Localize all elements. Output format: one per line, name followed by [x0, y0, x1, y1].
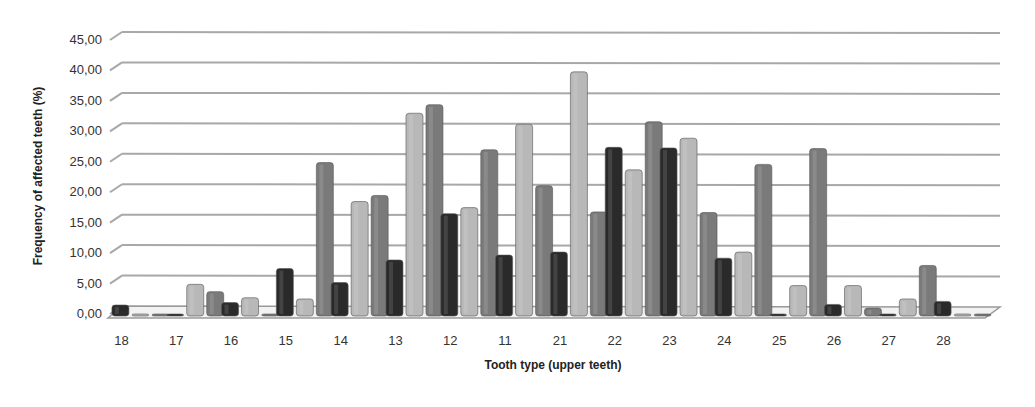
bar	[276, 269, 293, 316]
bar	[645, 122, 662, 316]
bar	[316, 163, 333, 316]
bar	[570, 72, 587, 316]
bar	[481, 150, 498, 316]
bar	[680, 138, 697, 316]
bar	[331, 283, 348, 316]
y-tick-label: 15,00	[56, 216, 102, 230]
gridline	[110, 184, 1000, 192]
bar	[516, 124, 533, 316]
x-tick-label: 26	[814, 333, 854, 348]
bar	[879, 314, 896, 316]
x-axis-label: Tooth type (upper teeth)	[484, 358, 621, 372]
x-tick-label: 11	[485, 333, 525, 348]
y-tick-label: 45,00	[56, 33, 102, 47]
y-tick-label: 40,00	[56, 63, 102, 77]
bar	[207, 292, 224, 316]
y-tick-label: 5,00	[56, 277, 102, 291]
x-tick-label: 25	[759, 333, 799, 348]
y-tick-label: 0,00	[56, 307, 102, 321]
y-axis-label: Frequency of affected teeth (%)	[31, 87, 45, 266]
bar	[112, 305, 129, 316]
bar	[810, 149, 827, 316]
y-tick-label: 10,00	[56, 246, 102, 260]
bar	[187, 284, 204, 316]
x-tick-label: 24	[704, 333, 744, 348]
bar	[371, 195, 388, 316]
bar	[426, 105, 443, 316]
bar	[550, 252, 567, 316]
bar	[590, 212, 607, 316]
bar	[770, 314, 787, 316]
x-tick-label: 12	[430, 333, 470, 348]
y-tick-label: 35,00	[56, 94, 102, 108]
bar	[934, 301, 951, 316]
bar	[406, 113, 423, 316]
bar	[386, 260, 403, 316]
y-tick-label: 30,00	[56, 124, 102, 138]
bar	[919, 265, 936, 316]
bar	[296, 299, 313, 316]
gridline	[110, 123, 1000, 131]
bar	[715, 258, 732, 316]
bar	[351, 202, 368, 316]
x-tick-label: 14	[321, 333, 361, 348]
bar	[132, 314, 149, 316]
gridline	[110, 154, 1000, 162]
bar	[899, 299, 916, 316]
bar	[222, 303, 239, 316]
x-tick-label: 17	[156, 333, 196, 348]
x-tick-label: 22	[595, 333, 635, 348]
bar	[974, 314, 991, 316]
bar	[755, 164, 772, 316]
x-tick-label: 28	[924, 333, 964, 348]
bar	[735, 252, 752, 316]
bar	[536, 186, 553, 316]
bar	[242, 298, 259, 316]
y-tick-label: 20,00	[56, 185, 102, 199]
bar	[790, 286, 807, 316]
bar	[660, 148, 677, 316]
gridline	[110, 62, 1000, 70]
bar	[625, 170, 642, 316]
bar	[844, 286, 861, 316]
bar	[954, 314, 971, 316]
bar	[167, 314, 184, 316]
bar	[824, 304, 841, 316]
bar	[496, 255, 513, 316]
x-tick-label: 15	[266, 333, 306, 348]
x-tick-label: 27	[869, 333, 909, 348]
bar-chart: 0,005,0010,0015,0020,0025,0030,0035,0040…	[0, 0, 1035, 407]
bar	[152, 314, 169, 316]
x-tick-label: 23	[650, 333, 690, 348]
y-tick-label: 25,00	[56, 155, 102, 169]
gridline	[110, 93, 1000, 101]
x-tick-label: 16	[211, 333, 251, 348]
x-tick-label: 18	[101, 333, 141, 348]
bar	[262, 314, 279, 316]
x-tick-label: 21	[540, 333, 580, 348]
bar	[605, 147, 622, 316]
gridline	[110, 215, 1000, 223]
bar	[864, 308, 881, 316]
bar	[441, 214, 458, 316]
x-tick-label: 13	[375, 333, 415, 348]
bar	[461, 208, 478, 316]
bar	[700, 212, 717, 316]
gridline	[110, 32, 1000, 40]
